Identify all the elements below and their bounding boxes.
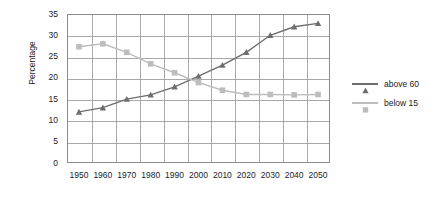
gridline-horizontal bbox=[68, 100, 329, 101]
gridline-vertical bbox=[140, 15, 141, 162]
triangle-marker-icon bbox=[362, 80, 369, 98]
gridline-vertical bbox=[307, 15, 308, 162]
y-axis-tick-label: 0 bbox=[30, 159, 58, 168]
gridline-horizontal bbox=[68, 121, 329, 122]
gridline-horizontal bbox=[68, 79, 329, 80]
legend-item-above-60: above 60 bbox=[352, 74, 440, 93]
x-axis-tick-label: 2050 bbox=[298, 171, 338, 180]
gridline-vertical bbox=[92, 15, 93, 162]
square-marker-icon bbox=[362, 99, 369, 117]
gridline-vertical bbox=[211, 15, 212, 162]
gridline-horizontal bbox=[68, 58, 329, 59]
gridline-vertical bbox=[188, 15, 189, 162]
legend: above 60 below 15 bbox=[352, 74, 440, 112]
y-axis-tick-label: 35 bbox=[30, 10, 58, 19]
gridline-vertical bbox=[164, 15, 165, 162]
y-axis-tick-label: 10 bbox=[30, 116, 58, 125]
y-axis-tick-label: 15 bbox=[30, 95, 58, 104]
plot-area bbox=[67, 14, 330, 163]
gridline-vertical bbox=[283, 15, 284, 162]
y-axis-tick-label: 5 bbox=[30, 137, 58, 146]
gridline-horizontal bbox=[68, 143, 329, 144]
gridline-horizontal bbox=[68, 36, 329, 37]
gridline-vertical bbox=[235, 15, 236, 162]
y-axis-tick-label: 25 bbox=[30, 52, 58, 61]
y-axis-tick-label: 20 bbox=[30, 73, 58, 82]
gridline-vertical bbox=[116, 15, 117, 162]
gridline-vertical bbox=[259, 15, 260, 162]
legend-swatch-below-15 bbox=[352, 97, 378, 108]
legend-swatch-above-60 bbox=[352, 78, 378, 89]
legend-label-above-60: above 60 bbox=[384, 79, 419, 89]
legend-label-below-15: below 15 bbox=[384, 98, 418, 108]
line-chart: Percentage 05101520253035 19501960197019… bbox=[0, 0, 442, 201]
y-axis-tick-label: 30 bbox=[30, 31, 58, 40]
